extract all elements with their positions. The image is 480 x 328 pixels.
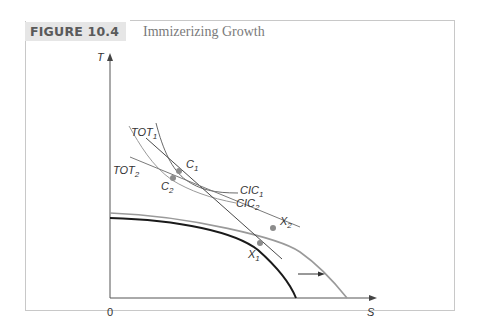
tot1-label: TOT1 [131,126,157,141]
y-axis-label: T [97,51,105,63]
y-axis-arrowhead-icon [107,53,113,61]
c2-label: C2 [161,180,174,195]
c1-label: C1 [186,158,198,173]
point-c2 [170,175,176,181]
x-axis-label: S [367,306,375,318]
x2-label: X2 [279,215,292,230]
point-c1 [176,168,182,174]
cic2-label: CIC2 [236,197,260,212]
point-x1 [257,240,263,246]
x-axis-arrowhead-icon [369,295,377,301]
point-x2 [270,225,276,231]
origin-label: 0 [107,306,113,318]
tot2-label: TOT2 [113,164,140,179]
axes [107,53,377,301]
diagram-canvas: T S 0 TOT1 TOT2 CIC1 CIC2 C1 C2 X1 X2 [0,0,480,328]
shift-arrow-icon [298,272,325,277]
ppf1-curve [110,218,296,298]
ppf2-curve [110,213,347,298]
